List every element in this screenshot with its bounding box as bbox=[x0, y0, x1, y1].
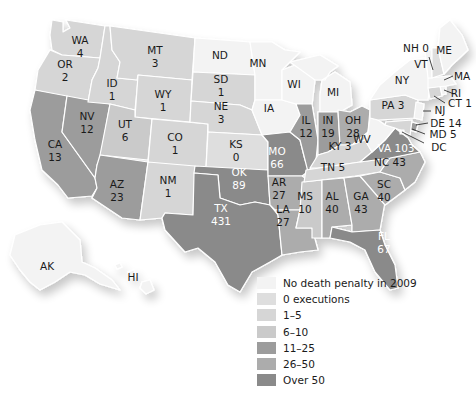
state-label-HI: HI bbox=[128, 271, 139, 283]
state-label-ME: ME bbox=[436, 44, 452, 56]
state-label-MN: MN bbox=[250, 57, 267, 69]
legend-label: 11–25 bbox=[283, 342, 315, 354]
legend-item-no-death-penalty: No death penalty in 2009 bbox=[257, 275, 472, 291]
state-label-IN: IN19 bbox=[321, 114, 334, 139]
legend-swatch bbox=[257, 374, 276, 386]
legend-label: No death penalty in 2009 bbox=[283, 277, 417, 289]
state-label-TN: TN 5 bbox=[320, 161, 345, 173]
state-label-NH: NH 0 bbox=[403, 42, 429, 54]
legend-label: 1–5 bbox=[283, 309, 302, 321]
legend-swatch bbox=[257, 309, 276, 321]
alaska-hawaii bbox=[10, 222, 154, 294]
state-label-IA: IA bbox=[264, 102, 275, 114]
legend-swatch bbox=[257, 293, 276, 305]
state-label-MI: MI bbox=[327, 86, 339, 98]
legend: No death penalty in 2009 0 executions 1–… bbox=[257, 275, 472, 388]
legend-label: 6–10 bbox=[283, 326, 308, 338]
state-label-MO: MO66 bbox=[268, 145, 285, 170]
state-label-CT: CT 1 bbox=[448, 97, 472, 109]
legend-item-0-executions: 0 executions bbox=[257, 291, 472, 307]
legend-label: 26–50 bbox=[283, 358, 315, 370]
state-label-NY: NY bbox=[395, 74, 410, 86]
legend-item-1-5: 1–5 bbox=[257, 307, 472, 323]
state-label-NV: NV12 bbox=[79, 110, 95, 135]
legend-swatch bbox=[257, 326, 276, 338]
legend-item-11-25: 11–25 bbox=[257, 340, 472, 356]
legend-item-26-50: 26–50 bbox=[257, 356, 472, 372]
state-label-NJ: NJ bbox=[435, 104, 446, 116]
state-label-PA: PA 3 bbox=[382, 99, 405, 111]
legend-label: Over 50 bbox=[283, 374, 325, 386]
state-label-NC: NC 43 bbox=[374, 156, 406, 168]
state-label-LA: LA27 bbox=[276, 203, 290, 228]
state-label-AL: AL40 bbox=[325, 190, 338, 215]
state-label-KY: KY 3 bbox=[329, 140, 352, 152]
state-AK[interactable] bbox=[10, 222, 120, 290]
state-label-DC: DC bbox=[431, 141, 446, 153]
legend-swatch bbox=[257, 342, 276, 354]
legend-label: 0 executions bbox=[283, 293, 350, 305]
legend-swatch bbox=[257, 358, 276, 370]
state-label-MA: MA bbox=[454, 70, 471, 82]
state-label-AZ: AZ23 bbox=[110, 178, 124, 203]
state-label-WI: WI bbox=[287, 78, 300, 90]
state-label-OK: OK89 bbox=[231, 166, 247, 191]
legend-item-over-50: Over 50 bbox=[257, 372, 472, 388]
state-label-SC: SC40 bbox=[377, 178, 391, 203]
legend-item-6-10: 6–10 bbox=[257, 324, 472, 340]
state-label-FL: FL67 bbox=[377, 230, 390, 255]
state-label-AK: AK bbox=[40, 260, 55, 272]
state-label-GA: GA43 bbox=[353, 190, 369, 215]
state-label-VT: VT bbox=[414, 58, 428, 70]
state-label-ND: ND bbox=[212, 49, 228, 61]
state-label-MS: MS10 bbox=[297, 190, 313, 215]
state-label-VA: VA 103 bbox=[377, 142, 414, 154]
state-label-AR: AR27 bbox=[272, 176, 286, 201]
legend-swatch bbox=[257, 277, 276, 289]
state-label-WV: WV bbox=[353, 133, 371, 145]
state-NJ[interactable] bbox=[414, 102, 424, 120]
state-label-MD: MD 5 bbox=[429, 128, 456, 140]
state-label-CA: CA13 bbox=[48, 138, 63, 163]
